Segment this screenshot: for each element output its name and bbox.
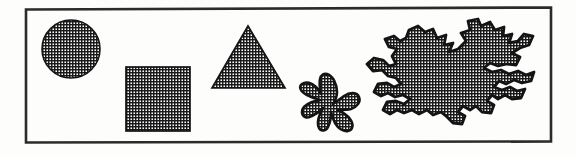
- figure-canvas: [0, 0, 576, 156]
- shape-square: [126, 67, 190, 131]
- shape-circle: [42, 20, 100, 78]
- figure-container: Cross-hatched geometric and fractal shap…: [0, 0, 576, 156]
